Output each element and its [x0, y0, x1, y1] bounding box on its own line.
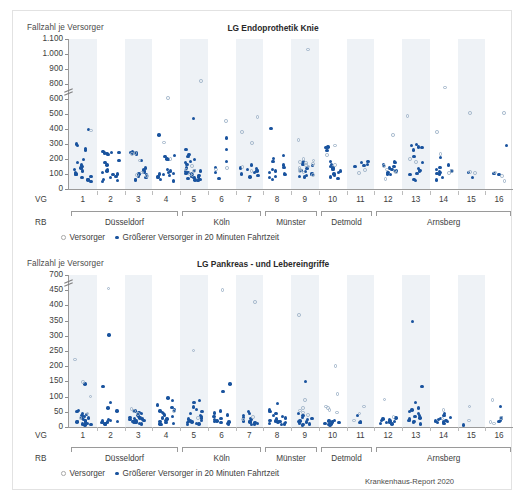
- data-point-groesserer-versorger: [268, 410, 271, 413]
- region-bracket: [376, 447, 511, 452]
- region-bracket: [265, 211, 317, 216]
- y-axis-caption: Fallzahl je Versorger: [27, 259, 104, 268]
- column-band: [347, 39, 375, 189]
- y-tick-label: 250: [19, 346, 63, 355]
- data-point-groesserer-versorger: [105, 169, 108, 172]
- y-tick: [65, 336, 68, 337]
- region-bracket: [182, 447, 261, 452]
- region-bracket: [321, 211, 373, 216]
- vg-tick-mark: [97, 427, 98, 431]
- vg-tick-label: 9: [291, 195, 319, 204]
- region-bracket: [321, 447, 373, 452]
- data-point-groesserer-versorger: [353, 165, 356, 168]
- figure-container: Fallzahl je Versorger LG Endoprothetik K…: [12, 10, 512, 490]
- data-point-groesserer-versorger: [219, 421, 222, 424]
- data-point-versorger: [492, 422, 496, 426]
- vg-tick-label: 12: [374, 431, 402, 440]
- rb-axis-caption: RB: [35, 454, 46, 463]
- legend-label-groesserer-versorger: Größerer Versorger in 20 Minuten Fahrtze…: [123, 233, 280, 242]
- data-point-groesserer-versorger: [438, 166, 441, 169]
- data-point-groesserer-versorger: [268, 171, 271, 174]
- vg-tick-label: 11: [347, 431, 375, 440]
- data-point-groesserer-versorger: [447, 163, 450, 166]
- data-point-groesserer-versorger: [310, 417, 313, 420]
- vg-tick-label: 6: [208, 195, 236, 204]
- data-point-groesserer-versorger: [462, 423, 465, 426]
- vg-tick-label: 9: [291, 431, 319, 440]
- data-point-groesserer-versorger: [162, 173, 165, 176]
- data-point-groesserer-versorger: [301, 423, 304, 426]
- data-point-groesserer-versorger: [214, 171, 217, 174]
- data-point-groesserer-versorger: [134, 178, 137, 181]
- data-point-groesserer-versorger: [101, 385, 104, 388]
- data-point-groesserer-versorger: [284, 173, 287, 176]
- vg-tick-label: 14: [430, 431, 458, 440]
- data-point-versorger: [132, 409, 136, 413]
- data-point-groesserer-versorger: [106, 153, 109, 156]
- vg-tick-label: 4: [152, 195, 180, 204]
- vg-tick-mark: [263, 427, 264, 431]
- data-point-versorger: [297, 313, 301, 317]
- hollow-circle-icon: [61, 471, 66, 476]
- data-point-versorger: [107, 287, 111, 291]
- data-point-versorger: [250, 141, 254, 145]
- data-point-groesserer-versorger: [256, 422, 259, 425]
- data-point-groesserer-versorger: [240, 172, 243, 175]
- data-point-versorger: [172, 409, 176, 413]
- data-point-groesserer-versorger: [217, 177, 220, 180]
- data-point-versorger: [135, 173, 139, 177]
- data-point-groesserer-versorger: [172, 422, 175, 425]
- data-point-versorger: [73, 358, 77, 362]
- data-point-versorger: [352, 419, 356, 423]
- vg-tick-mark: [458, 427, 459, 431]
- y-tick: [65, 99, 68, 100]
- vg-tick-mark: [402, 427, 403, 431]
- region-label: Köln: [182, 454, 261, 463]
- region-label: Münster: [265, 454, 317, 463]
- data-point-versorger: [333, 144, 337, 148]
- y-tick-label: 150: [19, 376, 63, 385]
- data-point-groesserer-versorger: [171, 415, 174, 418]
- vg-tick-label: 8: [263, 431, 291, 440]
- y-tick: [65, 290, 68, 291]
- data-point-groesserer-versorger: [110, 151, 113, 154]
- vg-tick-label: 5: [180, 431, 208, 440]
- y-tick-label: 100: [19, 392, 63, 401]
- vg-tick-label: 2: [97, 195, 125, 204]
- column-band: [291, 275, 319, 427]
- y-tick-label: 300: [19, 139, 63, 148]
- vg-tick-mark: [319, 191, 320, 195]
- vg-tick-mark: [347, 191, 348, 195]
- data-point-versorger: [467, 419, 471, 423]
- data-point-groesserer-versorger: [109, 419, 112, 422]
- y-axis-line: [68, 39, 69, 189]
- vg-tick-mark: [263, 191, 264, 195]
- filled-circle-icon: [115, 236, 119, 240]
- data-point-groesserer-versorger: [168, 174, 171, 177]
- data-point-groesserer-versorger: [449, 416, 452, 419]
- data-point-groesserer-versorger: [184, 148, 187, 151]
- region-bracket: [71, 211, 178, 216]
- data-point-versorger: [439, 152, 443, 156]
- data-point-groesserer-versorger: [271, 160, 274, 163]
- vg-tick-label: 1: [69, 195, 97, 204]
- data-point-groesserer-versorger: [282, 166, 285, 169]
- y-tick: [65, 427, 68, 428]
- vg-tick-mark: [485, 427, 486, 431]
- data-point-groesserer-versorger: [109, 176, 112, 179]
- y-tick: [65, 189, 68, 190]
- column-band: [125, 275, 153, 427]
- y-tick: [65, 397, 68, 398]
- chart-title: LG Pankreas - und Lebereingriffe: [133, 259, 393, 269]
- y-tick: [65, 69, 68, 70]
- plot-area: [69, 275, 513, 427]
- data-point-groesserer-versorger: [441, 176, 444, 179]
- data-point-versorger: [382, 164, 386, 168]
- y-tick-label: 100: [19, 169, 63, 178]
- y-tick-label: 700: [19, 270, 63, 279]
- data-point-versorger: [408, 157, 412, 161]
- data-point-versorger: [303, 398, 307, 402]
- data-point-groesserer-versorger: [186, 177, 189, 180]
- vg-tick-mark: [180, 191, 181, 195]
- data-point-groesserer-versorger: [213, 420, 216, 423]
